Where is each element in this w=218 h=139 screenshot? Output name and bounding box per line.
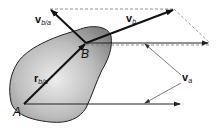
label-point-b: B <box>81 48 89 60</box>
rigid-body-velocity-diagram: vb/a vb B rb/a A va <box>0 0 218 139</box>
label-v-a: va <box>182 72 192 84</box>
leader-line-lower <box>145 83 181 103</box>
label-v-ba: vb/a <box>35 14 51 26</box>
label-r-ba: rb/a <box>34 73 48 85</box>
leader-line-upper <box>145 44 181 75</box>
diagram-canvas <box>0 0 218 139</box>
label-v-b: vb <box>126 13 136 25</box>
rigid-body-shape <box>10 27 112 123</box>
dashed-line-right <box>174 9 210 43</box>
label-point-a: A <box>13 106 21 118</box>
